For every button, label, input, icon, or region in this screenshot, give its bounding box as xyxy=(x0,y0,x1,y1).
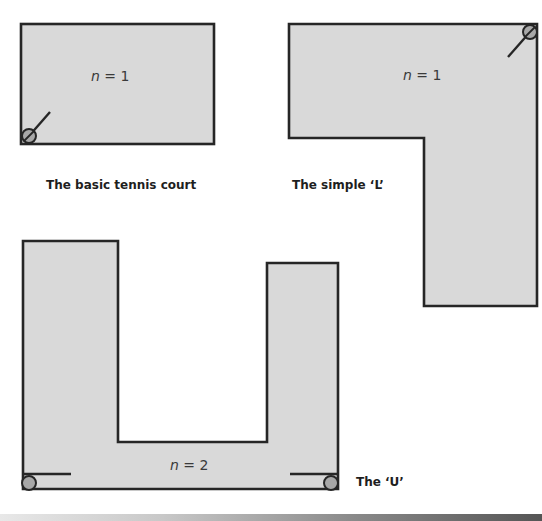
u-shape-caption: The ‘U’ xyxy=(356,475,404,489)
n-value: = 2 xyxy=(179,457,209,473)
u-shape-group: n = 2 The ‘U’ xyxy=(22,241,404,490)
basic-court-n-label: n = 1 xyxy=(91,68,129,84)
n-value: = 1 xyxy=(100,68,130,84)
n-variable: n xyxy=(403,67,412,83)
sprinkler-coverage-diagram: n = 1 The basic tennis court n = 1 The s… xyxy=(0,0,542,521)
u-shape-court xyxy=(23,241,338,489)
l-shape-caption: The simple ‘L’ xyxy=(292,178,384,192)
basic-court-group: n = 1 The basic tennis court xyxy=(21,24,214,192)
n-value: = 1 xyxy=(412,67,442,83)
basic-court-caption: The basic tennis court xyxy=(46,178,196,192)
n-variable: n xyxy=(91,68,100,84)
page-edge-shadow xyxy=(0,514,542,521)
n-variable: n xyxy=(170,457,179,473)
l-shape-n-label: n = 1 xyxy=(403,67,441,83)
u-shape-n-label: n = 2 xyxy=(170,457,208,473)
basic-court-shape xyxy=(21,24,214,144)
